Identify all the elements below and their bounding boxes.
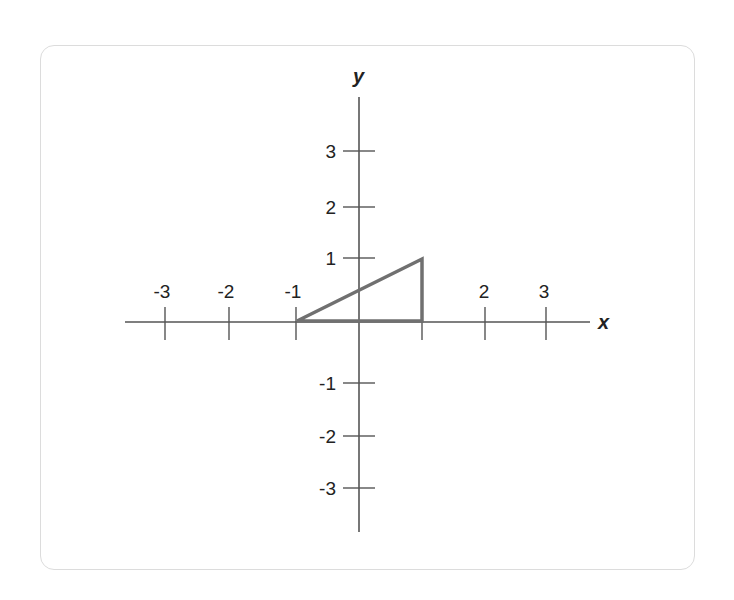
x-axis-label: x [597, 311, 610, 333]
x-tick-label: -3 [154, 281, 171, 302]
coordinate-plane: -3 -2 -1 2 3 3 2 1 -1 -2 -3 x y [0, 0, 734, 600]
x-tick-label: 2 [479, 281, 490, 302]
y-tick-label: -3 [319, 478, 336, 499]
x-tick-label: -1 [285, 281, 302, 302]
y-tick-label: 3 [325, 141, 336, 162]
y-tick-label: -2 [319, 426, 336, 447]
x-tick-label: -2 [218, 281, 235, 302]
x-ticks [165, 307, 546, 340]
y-tick-label: -1 [319, 373, 336, 394]
y-tick-label: 2 [325, 197, 336, 218]
y-axis-label: y [352, 65, 365, 87]
y-tick-label: 1 [325, 248, 336, 269]
x-tick-label: 3 [539, 281, 550, 302]
